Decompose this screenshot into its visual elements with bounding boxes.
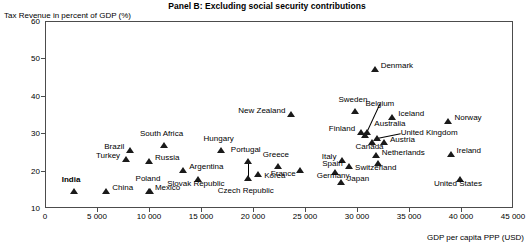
- data-point-marker: [179, 167, 187, 173]
- x-tick-mark: [409, 208, 410, 212]
- data-point-label: Argentina: [189, 162, 223, 171]
- y-tick-label: 30: [14, 129, 40, 138]
- chart-title: Panel B: Excluding social security contr…: [28, 1, 506, 11]
- x-tick-mark: [253, 208, 254, 212]
- data-point-label: Spain: [322, 159, 342, 168]
- data-point-marker: [254, 171, 262, 177]
- x-tick-label: 45 000: [501, 212, 525, 221]
- data-point-label: Switzerland: [355, 163, 396, 172]
- data-point-label: Norway: [454, 113, 481, 122]
- data-point-marker: [372, 152, 380, 158]
- data-point-label: Brazil: [104, 142, 124, 151]
- x-tick-mark: [201, 208, 202, 212]
- scatter-chart: Panel B: Excluding social security contr…: [0, 0, 530, 248]
- data-point-marker: [70, 188, 78, 194]
- data-point-marker: [345, 163, 353, 169]
- y-tick-label: 20: [14, 166, 40, 175]
- x-tick-mark: [357, 208, 358, 212]
- data-point-marker: [371, 66, 379, 72]
- data-point-label: Hungary: [204, 134, 234, 143]
- data-point-marker: [217, 147, 225, 153]
- x-tick-label: 20 000: [241, 212, 265, 221]
- x-tick-label: 5 000: [87, 212, 107, 221]
- data-point-marker: [351, 108, 359, 114]
- data-point-marker: [363, 129, 371, 135]
- data-point-label: Finland: [329, 124, 355, 133]
- data-point-label: Turkey: [96, 151, 120, 160]
- data-point-label: Australia: [374, 119, 405, 128]
- data-point-label: Greece: [263, 150, 289, 159]
- data-point-label: Ireland: [457, 146, 481, 155]
- data-point-label: United Kingdom: [401, 128, 458, 137]
- data-point-marker: [444, 118, 452, 124]
- data-point-label: Slovak Republic: [167, 179, 224, 188]
- data-point-marker: [296, 167, 304, 173]
- data-point-marker: [122, 156, 130, 162]
- data-point-label: Belgium: [365, 99, 394, 108]
- y-tick-label: 40: [14, 91, 40, 100]
- data-point-marker: [102, 188, 110, 194]
- x-tick-label: 40 000: [449, 212, 473, 221]
- data-point-label: Austria: [390, 135, 415, 144]
- data-point-label: Canada: [356, 142, 384, 151]
- data-point-label: New Zealand: [238, 106, 285, 115]
- data-point-label: Poland: [136, 174, 161, 183]
- x-tick-mark: [97, 208, 98, 212]
- x-axis-title: GDP per capita PPP (USD): [427, 233, 524, 242]
- plot-area: IndiaChinaBrazilTurkeyRussiaSouth Africa…: [45, 21, 513, 208]
- data-point-label: Japan: [347, 174, 369, 183]
- x-tick-label: 0: [43, 212, 47, 221]
- data-point-marker: [447, 151, 455, 157]
- x-tick-label: 30 000: [345, 212, 369, 221]
- x-tick-mark: [461, 208, 462, 212]
- data-point-label: India: [62, 175, 81, 184]
- x-tick-label: 25 000: [293, 212, 317, 221]
- data-point-marker: [244, 175, 252, 181]
- data-point-marker: [244, 158, 252, 164]
- data-point-label: Sweden: [338, 95, 367, 104]
- data-point-label: Germany: [317, 171, 350, 180]
- data-point-marker: [160, 142, 168, 148]
- data-point-label: China: [112, 183, 133, 192]
- x-tick-label: 10 000: [137, 212, 161, 221]
- data-point-label: Russia: [155, 153, 179, 162]
- data-point-marker: [287, 111, 295, 117]
- y-tick-label: 50: [14, 54, 40, 63]
- x-tick-mark: [149, 208, 150, 212]
- data-point-marker: [145, 158, 153, 164]
- data-point-label: Portugal: [231, 145, 261, 154]
- data-point-label: South Africa: [140, 129, 183, 138]
- x-tick-label: 35 000: [397, 212, 421, 221]
- data-point-label: United States: [434, 179, 482, 188]
- data-point-marker: [373, 135, 381, 141]
- y-tick-label: 10: [14, 204, 40, 213]
- y-tick-label: 60: [14, 17, 40, 26]
- data-point-label: Denmark: [381, 61, 413, 70]
- data-point-label: Iceland: [398, 109, 424, 118]
- data-point-label: France: [271, 169, 296, 178]
- x-tick-label: 15 000: [189, 212, 213, 221]
- data-point-marker: [146, 188, 154, 194]
- data-point-label: Czech Republic: [218, 186, 274, 195]
- data-point-label: Netherlands: [382, 148, 425, 157]
- data-point-marker: [126, 147, 134, 153]
- x-tick-mark: [305, 208, 306, 212]
